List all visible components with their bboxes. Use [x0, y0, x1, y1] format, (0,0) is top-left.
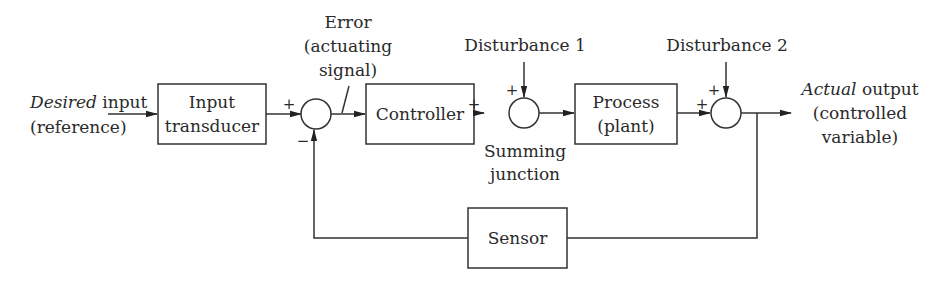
- feedback-path-left: [314, 130, 468, 238]
- junction1-plus-sign: +: [283, 95, 296, 113]
- summing-junction-3: [711, 98, 741, 128]
- actual-output-label: Actual output (controlled variable): [799, 79, 918, 147]
- error-label: Error (actuating signal): [304, 12, 392, 80]
- junction2-top-plus-sign: +: [506, 81, 519, 99]
- junction3-top-plus-sign: +: [708, 81, 721, 99]
- junction2-left-plus-sign: +: [468, 95, 481, 113]
- disturbance-2-label: Disturbance 2: [666, 35, 787, 55]
- svg-text:(controlled: (controlled: [813, 103, 907, 123]
- svg-text:Actual output: Actual output: [799, 79, 918, 99]
- controller-block: Controller: [366, 84, 474, 144]
- svg-text:Input: Input: [189, 92, 235, 112]
- junction1-minus-sign: −: [297, 132, 310, 150]
- svg-text:Desired input: Desired input: [29, 92, 148, 112]
- block-diagram: Desired input (reference) Input transduc…: [0, 0, 942, 286]
- input-transducer-block: Input transducer: [158, 84, 266, 144]
- svg-text:(reference): (reference): [30, 117, 127, 137]
- svg-text:transducer: transducer: [165, 116, 260, 136]
- summing-junction-2: [509, 98, 539, 128]
- svg-text:(actuating: (actuating: [304, 36, 392, 56]
- svg-text:(plant): (plant): [597, 116, 655, 136]
- sensor-block: Sensor: [468, 208, 567, 268]
- svg-text:Sensor: Sensor: [488, 228, 549, 248]
- svg-text:Error: Error: [324, 12, 372, 32]
- junction3-left-plus-sign: +: [696, 95, 709, 113]
- svg-text:variable): variable): [821, 127, 898, 147]
- summing-junction-1: [301, 99, 331, 129]
- error-label-leader: [342, 86, 349, 113]
- svg-text:Process: Process: [593, 92, 660, 112]
- svg-text:Summing: Summing: [484, 141, 566, 161]
- summing-junction-label: Summing junction: [484, 141, 566, 184]
- process-block: Process (plant): [575, 84, 677, 144]
- svg-text:Controller: Controller: [376, 104, 465, 124]
- svg-text:junction: junction: [488, 164, 560, 184]
- disturbance-1-label: Disturbance 1: [464, 35, 585, 55]
- svg-text:signal): signal): [319, 60, 377, 80]
